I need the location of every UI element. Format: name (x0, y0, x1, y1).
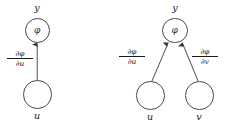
figure-canvas: y φ ∂φ ∂u u y φ (0, 0, 226, 124)
edge-u-to-phi-derivative-label: ∂φ ∂u (119, 48, 145, 66)
phi-node-label: φ (172, 26, 178, 35)
phi-node[interactable]: φ (25, 18, 51, 44)
derivative-numerator: ∂φ (119, 48, 145, 56)
node-outer-label-u: u (141, 112, 159, 122)
edge-u-to-phi-line (151, 45, 168, 85)
derivative-denominator: ∂u (7, 60, 33, 68)
derivative-numerator: ∂φ (7, 50, 33, 58)
edge-u-to-phi-derivative-label: ∂φ ∂u (7, 50, 33, 68)
node-outer-label-u: u (28, 111, 46, 121)
phi-node-label: φ (34, 26, 40, 35)
derivative-numerator: ∂φ (192, 48, 218, 56)
derivative-denominator: ∂u (119, 58, 145, 66)
derivative-denominator: ∂v (192, 58, 218, 66)
v-node[interactable] (185, 81, 214, 110)
diagram-two-variable: y φ ∂φ ∂u ∂φ ∂v u v (113, 0, 226, 124)
u-node[interactable] (23, 80, 52, 109)
node-outer-label-y: y (166, 3, 184, 13)
edge-v-to-phi-derivative-label: ∂φ ∂v (192, 48, 218, 66)
u-node[interactable] (136, 81, 165, 110)
node-outer-label-v: v (190, 112, 208, 122)
node-outer-label-y: y (28, 3, 46, 13)
diagram-single-variable: y φ ∂φ ∂u u (0, 0, 113, 124)
phi-node[interactable]: φ (162, 18, 188, 44)
